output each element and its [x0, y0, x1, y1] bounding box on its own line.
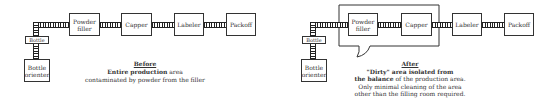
bottle-orienter-station: Bottle orienter — [301, 59, 327, 82]
after-caption-line1: "Dirty" area isolated from — [350, 68, 470, 76]
after-caption: After "Dirty" area isolated from the bal… — [350, 60, 470, 98]
conveyor-segment — [310, 22, 316, 36]
after-caption-line2: the balance of the production area. — [350, 75, 470, 83]
bottle-station: Bottle — [302, 36, 326, 44]
conveyor-segment — [310, 22, 350, 28]
powder-filler-station: Powder filler — [348, 13, 378, 36]
conveyor-segment — [482, 22, 504, 28]
conveyor-segment — [430, 22, 452, 28]
after-caption-line3: Only minimal cleaning of the area — [350, 83, 470, 91]
conveyor-segment — [310, 43, 316, 59]
capper-station: Capper — [401, 13, 432, 36]
after-caption-line4: other than the filling room required. — [350, 90, 470, 98]
labeler-station: Labeler — [452, 13, 482, 36]
after-caption-title: After — [350, 60, 470, 68]
packoff-station: Packoff — [504, 13, 534, 36]
